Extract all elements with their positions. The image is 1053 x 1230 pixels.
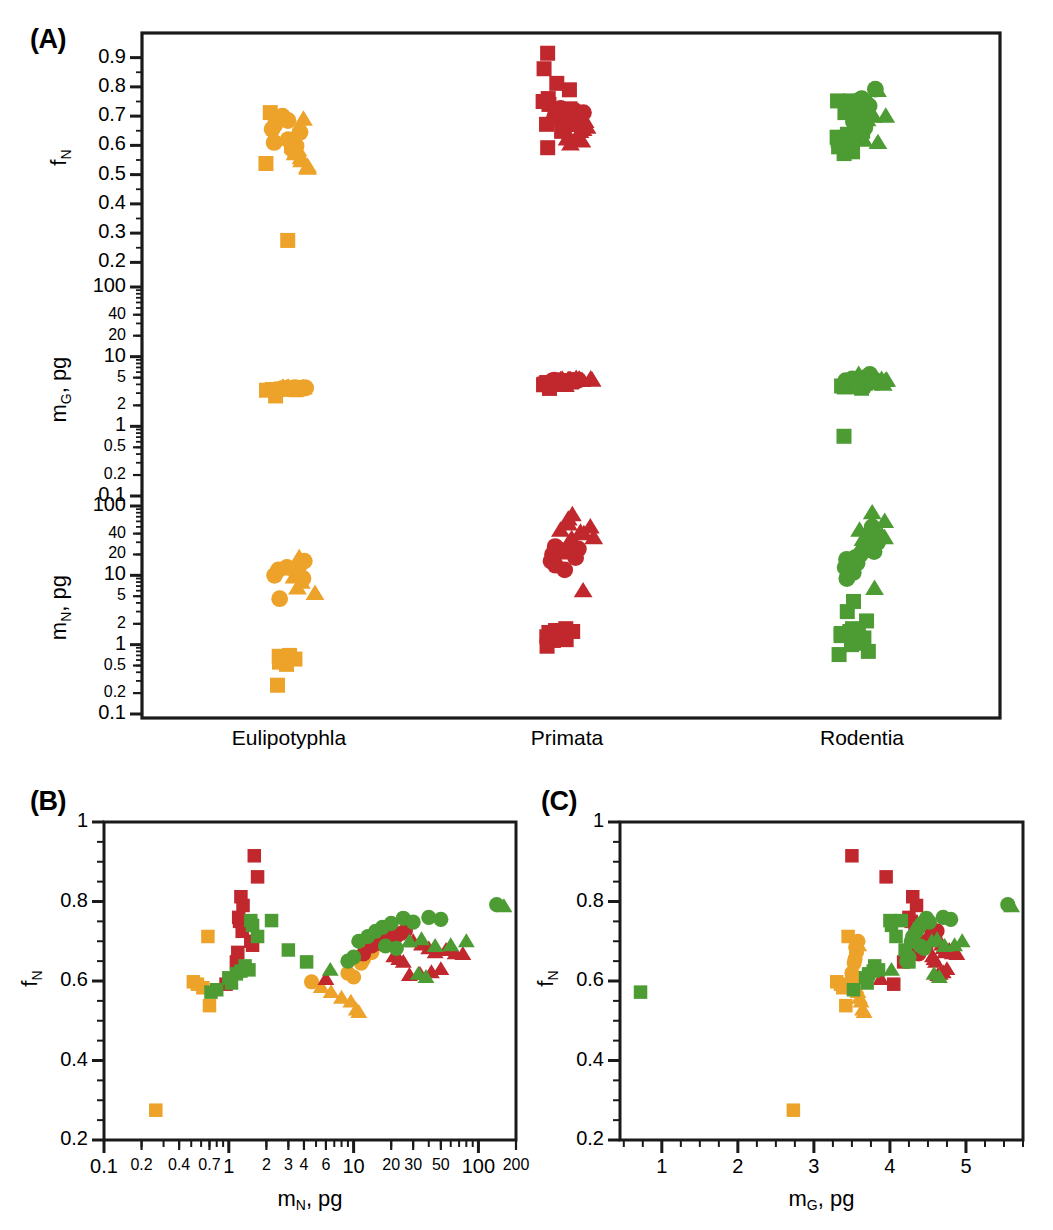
panel-c-point-eulipotyphla-0 bbox=[787, 1103, 801, 1117]
panel-c-xtick: 4 bbox=[855, 1155, 925, 1178]
panel-c-point-rodentia-6 bbox=[872, 963, 886, 977]
panel-c-point-rodentia-10 bbox=[895, 914, 909, 928]
panel-c-y-axis-title: fN bbox=[533, 924, 560, 1034]
panel-c-point-rodentia-0 bbox=[634, 985, 648, 999]
panel-c-point-rodentia-21 bbox=[943, 912, 958, 927]
panel-c-point-rodentia-36 bbox=[860, 976, 874, 990]
panel-c-point-rodentia-1 bbox=[847, 983, 861, 997]
figure-root: (A)0.90.80.70.60.50.40.30.2fN10040201052… bbox=[0, 0, 1053, 1230]
panel-c-ytick: 0.2 bbox=[542, 1127, 604, 1150]
panel-c-xtick: 1 bbox=[627, 1155, 697, 1178]
panel-c-point-rodentia-9 bbox=[889, 930, 903, 944]
panel-c-ytick: 1 bbox=[542, 809, 604, 832]
panel-c-point-primata-0 bbox=[845, 849, 859, 863]
panel-c-point-eulipotyphla-20 bbox=[845, 969, 860, 984]
panel-c-xtick: 2 bbox=[703, 1155, 773, 1178]
panel-c-plot bbox=[0, 0, 1053, 1230]
panel-c-ytick: 0.8 bbox=[542, 889, 604, 912]
panel-c-point-rodentia-19 bbox=[922, 915, 937, 930]
panel-c-point-primata-3 bbox=[910, 899, 924, 913]
panel-c-point-eulipotyphla-4 bbox=[839, 999, 853, 1013]
panel-c-x-axis-title: mG, pg bbox=[620, 1186, 1023, 1213]
panel-c-xtick: 3 bbox=[779, 1155, 849, 1178]
panel-c-xtick: 5 bbox=[931, 1155, 1001, 1178]
panel-c-point-primata-12 bbox=[887, 977, 901, 991]
panel-c-point-primata-1 bbox=[879, 870, 893, 884]
panel-c-point-rodentia-27 bbox=[899, 954, 914, 969]
panel-c-ytick: 0.4 bbox=[542, 1048, 604, 1071]
